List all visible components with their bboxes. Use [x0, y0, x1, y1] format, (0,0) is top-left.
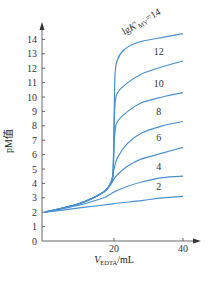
curve-label-6: 6 — [156, 132, 161, 143]
y-tick-label: 13 — [27, 48, 37, 59]
y-tick-label: 4 — [32, 178, 37, 189]
y-tick-label: 0 — [32, 236, 37, 247]
curve-label-12: 12 — [154, 46, 164, 57]
y-tick-label: 10 — [27, 92, 37, 103]
curve-label-8: 8 — [156, 106, 161, 117]
x-ticks: 2040 — [109, 238, 188, 254]
y-tick-label: 2 — [32, 207, 37, 218]
curve-label-4: 4 — [156, 161, 161, 172]
y-tick-label: 9 — [32, 106, 37, 117]
y-axis-arrow-icon — [40, 22, 45, 30]
y-tick-label: 7 — [32, 135, 37, 146]
curve-label-14: lgK′MY=14 — [120, 6, 163, 38]
curve-label-2: 2 — [156, 181, 161, 192]
y-axis-title: pM值 — [2, 129, 14, 153]
x-tick-label: 40 — [178, 243, 188, 254]
titration-chart: 01234567891011121314 2040 lgK′MY=1412108… — [0, 0, 224, 281]
x-axis-title: VEDTA/mL — [94, 254, 134, 266]
curve-label-10: 10 — [154, 78, 164, 89]
curve-labels: lgK′MY=1412108642 — [120, 6, 164, 192]
y-tick-label: 12 — [27, 63, 37, 74]
curves — [45, 34, 183, 213]
y-tick-label: 1 — [32, 221, 37, 232]
x-tick-label: 20 — [109, 243, 119, 254]
x-axis-arrow-icon — [193, 239, 201, 244]
y-tick-label: 5 — [32, 164, 37, 175]
y-tick-label: 6 — [32, 149, 37, 160]
y-tick-label: 11 — [27, 77, 37, 88]
y-tick-label: 14 — [27, 34, 37, 45]
y-tick-label: 8 — [32, 120, 37, 131]
y-tick-label: 3 — [32, 192, 37, 203]
curve-lgk-2 — [45, 196, 183, 212]
